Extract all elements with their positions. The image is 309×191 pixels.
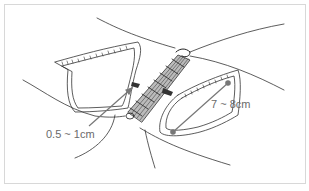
gap-distance-label: 0.5 ~ 1cm: [46, 128, 95, 140]
suture-bundle: [126, 49, 190, 122]
surgical-illustration: [0, 0, 309, 191]
left-wound-outline: [55, 42, 141, 112]
gap-arrow: [89, 88, 132, 126]
upper-contour-line: [97, 18, 175, 48]
lower-contour-line: [140, 128, 230, 165]
length-label: 7 ~ 8cm: [211, 98, 250, 110]
